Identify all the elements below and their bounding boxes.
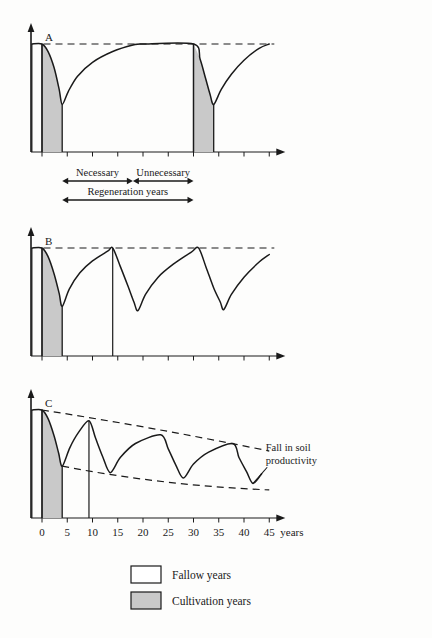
y-axis-arrowhead-C xyxy=(28,389,35,398)
soil-productivity-figure: ANecessaryUnnecessaryRegeneration yearsB… xyxy=(0,0,432,638)
x-tick-label-25: 25 xyxy=(163,526,175,538)
cultivation-block-C-0 xyxy=(42,410,62,518)
productivity-curve-B xyxy=(32,247,269,311)
panel-A: ANecessaryUnnecessaryRegeneration years xyxy=(28,23,286,203)
span-necessary-arrow-left xyxy=(62,178,68,184)
x-tick-label-15: 15 xyxy=(112,526,124,538)
callout-leader-line-C xyxy=(253,467,267,483)
x-axis-arrowhead-C xyxy=(276,514,285,521)
y-axis-arrowhead-A xyxy=(28,23,35,32)
span-annotations-A: NecessaryUnnecessaryRegeneration years xyxy=(62,167,193,203)
legend-swatch-1 xyxy=(131,592,161,609)
span-regeneration-arrow-left xyxy=(62,197,68,203)
x-tick-label-20: 20 xyxy=(138,526,150,538)
legend-label-0: Fallow years xyxy=(172,569,232,582)
legend-swatch-0 xyxy=(131,566,161,583)
y-axis-arrowhead-B xyxy=(28,227,35,236)
panel-label-A: A xyxy=(45,31,53,43)
label-regeneration: Regeneration years xyxy=(87,186,168,197)
x-tick-label-40: 40 xyxy=(239,526,251,538)
label-necessary: Necessary xyxy=(76,167,120,178)
envelope-lower-C xyxy=(62,466,269,490)
productivity-curve-C xyxy=(32,409,262,483)
panel-label-B: B xyxy=(45,235,52,247)
span-unnecessary-arrow-left xyxy=(133,178,139,184)
label-unnecessary: Unnecessary xyxy=(136,167,190,178)
panel-C: CFall in soilproductivity xyxy=(28,389,318,523)
legend-label-1: Cultivation years xyxy=(172,595,251,608)
x-tick-label-45: 45 xyxy=(264,526,276,538)
callout-text-line2: productivity xyxy=(266,455,318,466)
cultivation-block-B-0 xyxy=(42,248,62,356)
x-axis-unit-label: years xyxy=(280,526,303,538)
productivity-curve-A xyxy=(32,43,269,105)
span-unnecessary-arrow-right xyxy=(188,178,194,184)
x-axis-arrowhead-A xyxy=(276,148,285,155)
x-tick-label-5: 5 xyxy=(65,526,71,538)
x-tick-label-0: 0 xyxy=(39,526,45,538)
x-tick-label-10: 10 xyxy=(87,526,99,538)
x-axis-tick-labels: 051015202530354045years xyxy=(39,526,303,538)
span-regeneration-arrow-right xyxy=(188,197,194,203)
legend: Fallow yearsCultivation years xyxy=(131,566,251,609)
panel-label-C: C xyxy=(45,397,52,409)
span-necessary-arrow-right xyxy=(127,178,133,184)
callout-text-line1: Fall in soil xyxy=(266,442,311,453)
x-tick-label-30: 30 xyxy=(188,526,200,538)
x-tick-label-35: 35 xyxy=(213,526,225,538)
x-axis-arrowhead-B xyxy=(276,352,285,359)
panel-B: B xyxy=(28,227,286,361)
